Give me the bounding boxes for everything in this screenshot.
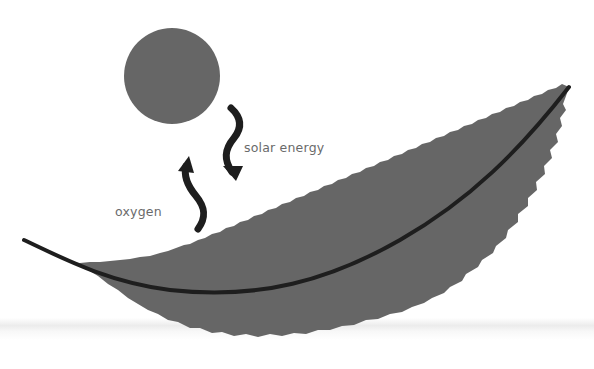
photosynthesis-diagram: solar energy oxygen (0, 0, 594, 369)
solar-energy-label: solar energy (244, 140, 324, 155)
diagram-canvas (0, 0, 594, 369)
leaf-icon (24, 84, 569, 337)
oxygen-label: oxygen (115, 204, 162, 219)
sun-icon (124, 28, 220, 124)
oxygen-arrow-icon (178, 156, 204, 229)
solar-energy-arrow-icon (223, 108, 243, 181)
